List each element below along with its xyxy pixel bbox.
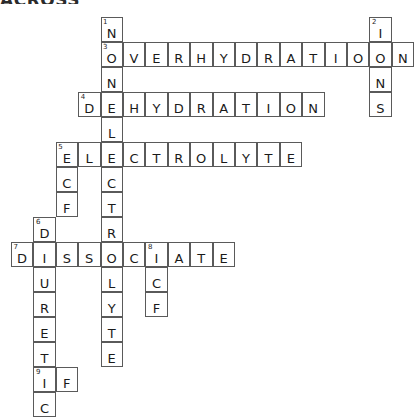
grid-cell[interactable]: 6D [33,217,55,242]
cell-letter: E [34,327,54,340]
grid-cell[interactable]: R [168,42,190,67]
grid-cell[interactable]: R [33,292,55,317]
grid-cell[interactable]: 5E [56,142,78,167]
grid-cell[interactable]: D [168,92,190,117]
grid-cell[interactable]: O [190,142,212,167]
cell-letter: R [102,227,122,240]
grid-cell[interactable]: O [369,42,391,67]
cell-letter: F [146,302,166,315]
grid-cell[interactable]: T [145,142,167,167]
grid-cell[interactable]: C [145,267,167,292]
cell-letter: T [191,252,211,265]
cell-letter: O [102,252,122,265]
cell-letter: T [102,327,122,340]
grid-cell[interactable]: N [392,42,414,67]
cell-letter: R [191,102,211,115]
grid-cell[interactable]: N [101,67,123,92]
grid-cell[interactable]: L [78,142,100,167]
grid-cell[interactable]: 7D [11,242,33,267]
grid-cell[interactable]: 8I [145,242,167,267]
grid-cell[interactable]: A [168,242,190,267]
cell-letter: I [146,252,166,265]
grid-cell[interactable]: L [101,117,123,142]
grid-cell[interactable]: R [101,217,123,242]
grid-cell[interactable]: E [213,242,235,267]
cell-letter: C [34,402,54,415]
cell-letter: E [214,252,234,265]
grid-cell[interactable]: D [235,42,257,67]
grid-cell[interactable]: F [145,292,167,317]
grid-cell[interactable]: S [56,242,78,267]
cell-letter: S [57,252,77,265]
grid-cell[interactable]: 3O [101,42,123,67]
cell-letter: O [370,52,390,65]
grid-cell[interactable]: T [101,317,123,342]
grid-cell[interactable]: I [33,242,55,267]
grid-cell[interactable]: T [101,192,123,217]
grid-cell[interactable]: E [145,42,167,67]
grid-cell[interactable]: S [369,92,391,117]
grid-cell[interactable]: C [123,142,145,167]
cell-letter: D [169,102,189,115]
grid-cell[interactable]: Y [235,142,257,167]
grid-cell[interactable]: 1N [101,17,123,42]
cell-letter: E [281,152,301,165]
grid-cell[interactable]: A [213,92,235,117]
cell-letter: F [57,377,77,390]
cell-letter: L [102,127,122,140]
grid-cell[interactable]: N [302,92,324,117]
grid-cell[interactable]: T [257,142,279,167]
cell-letter: T [236,102,256,115]
grid-cell[interactable]: 4D [78,92,100,117]
grid-cell[interactable]: E [101,142,123,167]
grid-cell[interactable]: N [369,67,391,92]
grid-cell[interactable]: Y [213,42,235,67]
grid-cell[interactable]: C [56,167,78,192]
grid-cell[interactable]: C [123,242,145,267]
cell-letter: A [169,252,189,265]
grid-cell[interactable]: T [235,92,257,117]
cell-letter: R [169,52,189,65]
grid-cell[interactable]: E [101,92,123,117]
grid-cell[interactable]: A [280,42,302,67]
grid-cell[interactable]: S [78,242,100,267]
grid-cell[interactable]: I [257,92,279,117]
cell-letter: D [12,252,32,265]
grid-cell[interactable]: T [33,342,55,367]
grid-cell[interactable]: V [123,42,145,67]
grid-cell[interactable]: C [33,392,55,417]
grid-cell[interactable]: U [33,267,55,292]
cell-letter: E [102,352,122,365]
grid-cell[interactable]: Y [101,292,123,317]
grid-cell[interactable]: T [302,42,324,67]
grid-cell[interactable]: H [190,42,212,67]
grid-cell[interactable]: O [101,242,123,267]
grid-cell[interactable]: 9I [33,367,55,392]
grid-cell[interactable]: E [101,342,123,367]
grid-cell[interactable]: 2I [369,17,391,42]
cell-letter: A [214,102,234,115]
grid-cell[interactable]: E [280,142,302,167]
grid-cell[interactable]: O [347,42,369,67]
clue-number: 4 [81,93,85,101]
grid-cell[interactable]: F [56,192,78,217]
cell-letter: E [146,52,166,65]
cell-letter: O [281,102,301,115]
cell-letter: I [370,27,390,40]
grid-cell[interactable]: F [56,367,78,392]
grid-cell[interactable]: O [280,92,302,117]
grid-cell[interactable]: R [190,92,212,117]
grid-cell[interactable]: L [213,142,235,167]
grid-cell[interactable]: R [257,42,279,67]
grid-cell[interactable]: C [101,167,123,192]
grid-cell[interactable]: Y [145,92,167,117]
grid-cell[interactable]: H [123,92,145,117]
grid-cell[interactable]: L [101,267,123,292]
grid-cell[interactable]: R [168,142,190,167]
cell-letter: I [326,52,346,65]
grid-cell[interactable]: E [33,317,55,342]
cell-letter: C [124,152,144,165]
grid-cell[interactable]: T [190,242,212,267]
cell-letter: H [191,52,211,65]
grid-cell[interactable]: I [325,42,347,67]
